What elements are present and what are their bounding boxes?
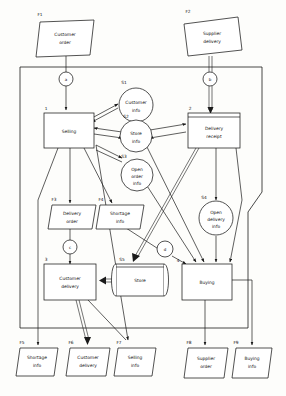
datastore-s5-label: Store xyxy=(134,278,146,283)
flow-tag-f8: F8 xyxy=(186,340,191,345)
data-flow-diagram: F1 Customer order F2 Supplier delivery a… xyxy=(0,0,286,396)
connector-c-label: c xyxy=(69,245,71,250)
flow-label-f5-line2: info xyxy=(33,363,42,368)
flow-tag-f6: F6 xyxy=(68,340,73,345)
datastore-s3-label-line2: order xyxy=(131,174,143,179)
datastore-s3-label-line1: Open xyxy=(131,167,143,172)
datastore-s3-label-line3: info xyxy=(133,181,142,186)
flow-label-f7-line1: Selling xyxy=(128,355,143,360)
process-2-delivery-receipt[interactable]: 2 Delivery receipt xyxy=(188,106,240,148)
datastore-s4-label-line1: Open xyxy=(210,210,222,215)
process-3-label-line2: delivery xyxy=(61,284,79,289)
datastore-s4-label-line3: info xyxy=(212,224,221,229)
external-flow-f5[interactable]: F5 Shortage info xyxy=(16,340,58,376)
external-flow-f2[interactable]: F2 Supplier delivery xyxy=(184,9,242,56)
flow-tag-f7: F7 xyxy=(116,340,121,345)
external-flow-f9[interactable]: F9 Buying info xyxy=(232,340,272,378)
flow-tag-f1: F1 xyxy=(37,12,42,17)
process-4-id: 4 xyxy=(177,258,180,263)
datastore-s5-store[interactable]: S5 Store xyxy=(112,257,169,296)
external-flow-f4[interactable]: F4 Shortage info xyxy=(96,197,144,229)
external-flow-f3[interactable]: F3 Delivery order xyxy=(48,197,96,229)
connector-d[interactable]: d xyxy=(157,241,173,257)
flow-label-f9-line1: Buying xyxy=(244,356,259,361)
connector-a[interactable]: a xyxy=(59,72,73,86)
external-flow-f6[interactable]: F6 Customer delivery xyxy=(66,340,110,376)
datastore-s3-id: S3 xyxy=(121,154,127,159)
flow-label-f1-line1: Customer xyxy=(54,32,76,37)
flow-label-f1-line2: order xyxy=(59,40,71,45)
datastore-s4-open-delivery-info[interactable]: S4 Open delivery info xyxy=(199,195,233,235)
flow-tag-f4: F4 xyxy=(98,197,103,202)
datastore-s3-open-order-info[interactable]: S3 Open order info xyxy=(121,154,153,191)
flow-label-f3-line1: Delivery xyxy=(63,211,82,216)
process-3-id: 3 xyxy=(45,257,48,262)
datastore-s1-label-line1: Customer xyxy=(125,100,147,105)
process-2-label-line1: Delivery xyxy=(205,126,224,131)
flow-label-f4-line1: Shortage xyxy=(110,211,130,216)
process-3-label-line1: Customer xyxy=(59,276,81,281)
process-1-id: 1 xyxy=(45,106,48,111)
flow-label-f9-line2: info xyxy=(248,364,257,369)
process-1-label: Selling xyxy=(62,129,77,134)
external-flow-f7[interactable]: F7 Selling info xyxy=(114,340,156,376)
datastore-s4-label-line2: delivery xyxy=(207,217,225,222)
connector-b-label: b xyxy=(209,77,212,82)
connector-d-label: d xyxy=(164,247,167,252)
flow-label-f8-line1: Supplier xyxy=(197,356,215,361)
process-4-label: Buying xyxy=(199,280,214,285)
process-1-selling[interactable]: 1 Selling xyxy=(44,106,94,148)
process-2-id: 2 xyxy=(189,106,192,111)
datastore-s4-id: S4 xyxy=(201,195,207,200)
flow-label-f7-line2: info xyxy=(131,363,140,368)
flow-label-f6-line2: delivery xyxy=(79,363,97,368)
process-2-label-line2: receipt xyxy=(206,134,222,139)
flow-tag-f3: F3 xyxy=(51,197,56,202)
connector-b[interactable]: b xyxy=(203,72,217,86)
datastore-s2-label-line1: Store xyxy=(130,131,142,136)
flow-label-f4-line2: info xyxy=(116,219,125,224)
external-flow-f8[interactable]: F8 Supplier order xyxy=(184,340,228,378)
flow-label-f2-line2: delivery xyxy=(203,39,221,44)
datastore-s2-label-line2: info xyxy=(132,139,141,144)
diagram-canvas: F1 Customer order F2 Supplier delivery a… xyxy=(0,0,286,396)
flow-tag-f5: F5 xyxy=(19,340,24,345)
flow-label-f8-line2: order xyxy=(200,364,212,369)
process-4-buying[interactable]: 4 Buying xyxy=(177,258,232,300)
external-flow-f1[interactable]: F1 Customer order xyxy=(36,12,94,57)
datastore-s5-id: S5 xyxy=(119,257,125,262)
datastore-s1-id: S1 xyxy=(121,80,127,85)
flow-label-f6-line1: Customer xyxy=(77,355,99,360)
datastore-s2-id: S2 xyxy=(123,114,129,119)
flow-tag-f9: F9 xyxy=(233,340,238,345)
flow-label-f3-line2: order xyxy=(66,219,78,224)
datastore-s2-store-info[interactable]: S2 Store info xyxy=(120,114,152,152)
flow-label-f2-line1: Supplier xyxy=(203,31,221,36)
connector-c[interactable]: c xyxy=(63,240,77,254)
flow-tag-f2: F2 xyxy=(185,9,190,14)
datastore-s1-label-line2: info xyxy=(132,108,141,113)
flow-label-f5-line1: Shortage xyxy=(27,355,47,360)
